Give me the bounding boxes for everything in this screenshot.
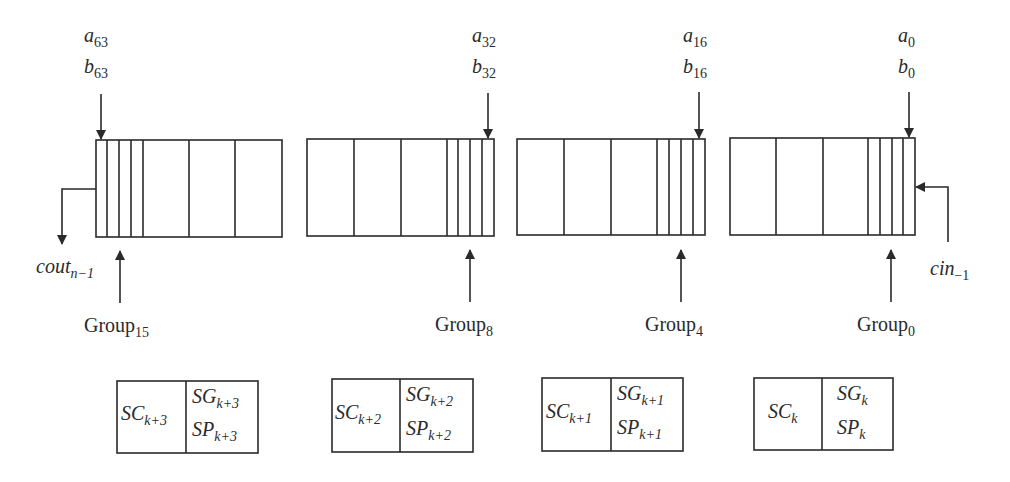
- input-a0-label: a0: [898, 25, 915, 48]
- sg-k1-label: SGk+1: [617, 383, 664, 406]
- sg-k3-label: SGk+3: [192, 386, 239, 409]
- group0-label: Group0: [857, 314, 915, 337]
- group15-label: Group15: [84, 315, 149, 338]
- input-b32-label: b32: [472, 56, 496, 79]
- input-b16-label: b16: [683, 56, 707, 79]
- input-b0-label: b0: [898, 56, 915, 79]
- adder-block-group4: [517, 139, 705, 235]
- adder-block-group8: [307, 139, 494, 236]
- group8-label: Group8: [435, 314, 493, 337]
- input-a63-label: a63: [84, 25, 108, 48]
- carry-out-label: coutn−1: [36, 256, 94, 279]
- carry-out-arrow: [62, 189, 96, 244]
- carry-in-label: cin−1: [930, 258, 969, 281]
- sc-k1-label: SCk+1: [546, 401, 592, 424]
- input-b63-label: b63: [84, 56, 108, 79]
- group4-label: Group4: [645, 314, 703, 337]
- input-a32-label: a32: [472, 25, 496, 48]
- sp-k2-label: SPk+2: [406, 418, 451, 441]
- adder-block-group15: [96, 140, 282, 237]
- sp-k-label: SPk: [837, 417, 865, 440]
- sg-k-label: SGk: [837, 383, 868, 406]
- carry-in-arrow: [916, 187, 948, 242]
- sp-k1-label: SPk+1: [617, 417, 662, 440]
- sc-k3-label: SCk+3: [121, 403, 167, 426]
- sg-k2-label: SGk+2: [406, 384, 453, 407]
- input-a16-label: a16: [683, 25, 707, 48]
- sc-k-label: SCk: [768, 401, 798, 424]
- adder-block-group0: [730, 138, 915, 235]
- sc-k2-label: SCk+2: [335, 402, 381, 425]
- sp-k3-label: SPk+3: [192, 419, 237, 442]
